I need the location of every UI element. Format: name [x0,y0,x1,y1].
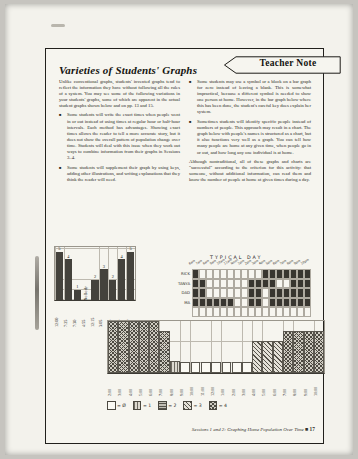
bar [56,252,63,300]
home-cell-filled [262,269,269,279]
home-cell-filled [269,288,276,298]
home-cell-filled [255,279,262,289]
x-axis-label: 5:00 [138,374,148,397]
page-frame: Varieties of Students' Graphs Teacher No… [45,48,324,444]
home-cell-filled [269,298,276,308]
bar-column: 4 [117,247,126,300]
home-cell-empty [276,307,283,317]
home-cell-empty [206,279,213,289]
teacher-note-label: Teacher Note [238,58,338,68]
zero-symbol-cell [222,362,232,373]
home-cell-filled [304,298,311,308]
x-axis-label: 10:00 [313,374,323,397]
home-cell-empty [206,307,213,317]
legend-item: = Ø [107,401,126,410]
home-cell-empty [192,307,199,317]
home-cell-empty [220,269,227,279]
legend-label: = 3 [193,403,201,408]
bullet-item: ■Some students will write the exact time… [59,112,180,161]
intro-paragraph: Unlike conventional graphs, students' in… [59,79,180,109]
home-cell-filled [199,288,206,298]
x-axis-label: 2:00 [231,374,241,397]
home-cell-empty [227,279,234,289]
patterned-bar [149,321,159,373]
x-axis-label: 12:00 [210,374,220,397]
home-cell-empty [241,288,248,298]
x-axis-label: 3:00 [241,374,251,397]
bar [91,280,98,300]
home-cell-empty [213,307,220,317]
zero-symbol-cell [232,362,242,373]
left-text-column: Unlike conventional graphs, students' in… [59,79,180,187]
bar-column [283,321,293,373]
bar-column [139,321,149,373]
x-axis-label: 7:00 [282,374,292,397]
scan-artifact [35,256,39,330]
home-cell-empty [269,307,276,317]
home-cell-empty [199,307,206,317]
home-cell-empty [262,307,269,317]
home-cell-filled [248,288,255,298]
home-cell-filled [213,298,220,308]
row-name-label: RICK [166,269,192,279]
teacher-note-tag: Teacher Note [224,56,341,74]
home-cell-filled [192,288,199,298]
row-name-label [166,307,192,317]
home-cell-filled [304,279,311,289]
home-cell-filled [199,298,206,308]
bar [65,259,72,300]
patterned-bar [283,331,293,373]
bar-column [190,321,200,373]
bar-column [273,321,283,373]
patterned-bar [139,321,149,373]
legend-item: = 1 [133,401,151,410]
left-bullet-list: ■Some students will write the exact time… [59,112,180,183]
home-cell-filled [248,298,255,308]
patterned-bar [262,341,272,373]
closing-paragraph: Although nontraditional, all of these gr… [189,159,311,183]
home-cell-empty [304,307,311,317]
bar-column: 5 [55,247,64,300]
bar [109,280,116,300]
patterned-bar [314,331,324,373]
invented-times-bar-chart: 541NoBody23245 12:007:257:304:5512:153:0… [54,246,136,328]
home-cell-filled [290,288,297,298]
home-cell-filled [255,288,262,298]
bar-value-label: NoBody [84,286,89,300]
patterned-bar [159,331,169,373]
bar-column [304,321,314,373]
home-cell-filled [220,298,227,308]
home-cell-filled [290,269,297,279]
bar [74,290,81,300]
home-cell-filled [297,298,304,308]
home-cell-filled [192,269,199,279]
x-axis-label: 1:00 [220,374,230,397]
home-cell-empty [234,279,241,289]
home-cell-empty [241,298,248,308]
row-name-label: DAD [166,288,192,298]
zero-symbol-cell [242,362,252,373]
legend-item: = 4 [209,401,227,410]
home-cell-empty [262,288,269,298]
bar-column [129,321,139,373]
patterned-bar [170,361,180,373]
bar-column: NoBody [82,247,91,300]
bar [118,259,125,300]
home-cell-empty [234,307,241,317]
bullet-item: ■Sometimes students will identify specif… [189,119,311,156]
x-axis-label: 12:00 [54,301,63,328]
bullet-text: Some students will supplement their grap… [67,165,180,183]
home-cell-empty [234,269,241,279]
bar-column [170,321,180,373]
column-header: 10pm [300,259,310,269]
bullet-text: Sometimes students will identify specifi… [197,119,311,156]
home-cell-empty [213,269,220,279]
home-cell-empty [283,279,290,289]
x-axis-label: 5:00 [261,374,271,397]
empty-swatch-icon [107,401,116,410]
bar [100,269,107,300]
home-cell-empty [262,298,269,308]
home-cell-empty [199,269,206,279]
patterned-bar [129,321,139,373]
home-cell-empty [276,279,283,289]
